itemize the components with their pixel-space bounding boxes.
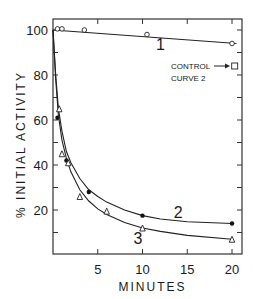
curve-label-2: 2 (174, 204, 183, 221)
open-circle-marker (230, 41, 235, 46)
y-tick-label: 40 (34, 158, 48, 173)
curve-1-line (53, 30, 237, 44)
open-triangle-marker (77, 194, 83, 200)
x-axis-title: MINUTES (119, 280, 187, 294)
open-circle-marker (145, 32, 150, 37)
control-curve-label: CURVE 2 (171, 74, 206, 83)
x-tick-label: 15 (180, 262, 194, 277)
open-triangle-marker (59, 151, 64, 157)
filled-circle-marker (230, 221, 234, 225)
open-triangle-marker (104, 208, 110, 214)
y-tick-label: 80 (34, 68, 48, 83)
open-circle-marker (55, 27, 60, 32)
filled-circle-marker (140, 213, 144, 217)
chart: 204060801005101520MINUTES% INITIAL ACTIV… (0, 0, 253, 299)
filled-circle-marker (87, 190, 91, 194)
x-tick-label: 20 (225, 262, 239, 277)
y-axis-title: % INITIAL ACTIVITY (14, 71, 28, 218)
x-tick-label: 10 (135, 262, 149, 277)
plot-frame (53, 19, 242, 254)
y-tick-label: 20 (34, 203, 48, 218)
x-tick-label: 5 (94, 262, 101, 277)
open-circle-marker (60, 27, 65, 32)
curve-label-1: 1 (156, 36, 165, 53)
arrow-head-icon (225, 64, 230, 69)
y-tick-label: 60 (34, 113, 48, 128)
curve-label-3: 3 (134, 230, 143, 247)
open-circle-marker (82, 28, 87, 33)
control-label: CONTROL (171, 62, 211, 71)
y-tick-label: 100 (26, 23, 48, 38)
control-square-marker (232, 63, 238, 69)
